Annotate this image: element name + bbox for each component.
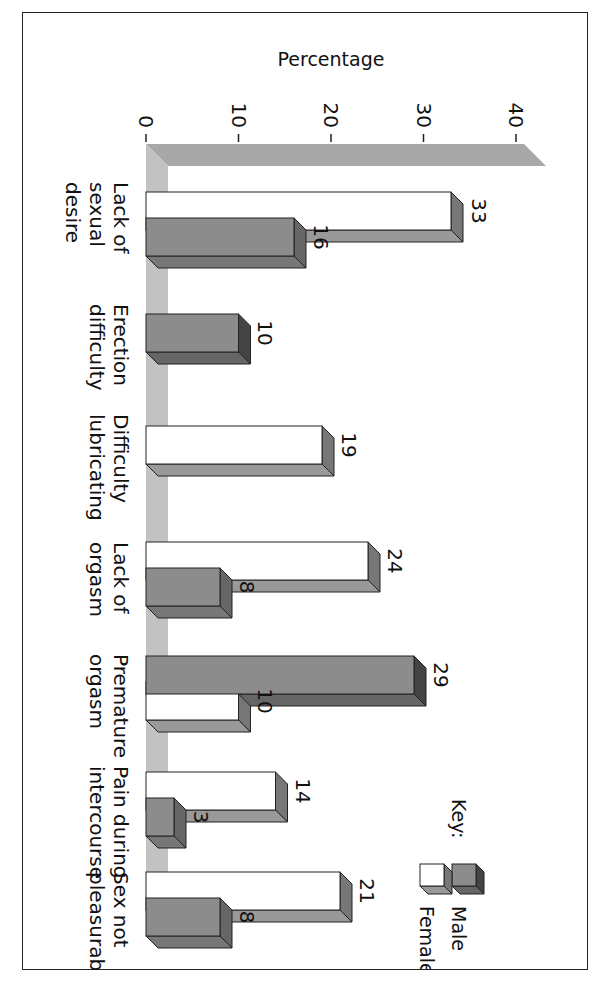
value-female-0: 33 xyxy=(467,198,491,223)
y-tick-10: 10 xyxy=(227,103,251,128)
bar-female-difficulty-lubricating xyxy=(146,426,322,464)
svg-text:Lack of: Lack of xyxy=(109,182,133,255)
category-label-lack-of-sexual-desire: Lack of sexual desire xyxy=(61,182,133,255)
value-female-4: 10 xyxy=(253,688,277,713)
y-axis xyxy=(146,134,516,142)
svg-text:pleasurable: pleasurable xyxy=(85,872,109,970)
bar-male-erection-difficulty xyxy=(146,314,239,352)
legend-label-male: Male xyxy=(448,906,470,951)
category-label-difficulty-lubricating: Difficulty lubricating xyxy=(85,414,133,521)
legend: Key: Male Female xyxy=(416,799,484,970)
svg-text:orgasm: orgasm xyxy=(85,654,109,729)
svg-text:Pain during: Pain during xyxy=(109,766,133,879)
svg-text:difficulty: difficulty xyxy=(85,304,109,391)
svg-text:Lack of: Lack of xyxy=(109,542,133,615)
value-female-5: 14 xyxy=(291,778,315,803)
value-male-6: 8 xyxy=(235,911,259,924)
svg-text:Difficulty: Difficulty xyxy=(109,414,133,503)
value-female-2: 19 xyxy=(337,432,361,457)
value-male-5: 3 xyxy=(189,811,213,824)
bar-group-lack-of-sexual-desire xyxy=(146,192,463,268)
svg-text:lubricating: lubricating xyxy=(85,414,109,521)
svg-text:sexual: sexual xyxy=(85,182,109,247)
svg-text:intercourse: intercourse xyxy=(85,766,109,879)
value-male-4: 29 xyxy=(429,662,453,687)
bar-group-pain-during-intercourse xyxy=(146,772,288,848)
y-tick-0: 0 xyxy=(134,115,158,128)
bar-male-premature-orgasm xyxy=(146,656,414,694)
bar-group-erection-difficulty xyxy=(146,314,251,364)
y-tick-20: 20 xyxy=(319,103,343,128)
bar-chart: 0 10 20 30 40 Percentage 33 16 10 19 xyxy=(24,14,586,970)
category-label-premature-orgasm: Premature orgasm xyxy=(85,654,133,758)
svg-text:Sex not: Sex not xyxy=(109,872,133,948)
legend-title: Key: xyxy=(448,799,470,838)
value-male-1: 10 xyxy=(253,320,277,345)
value-male-3: 8 xyxy=(235,581,259,594)
value-female-3: 24 xyxy=(383,548,407,573)
value-female-6: 21 xyxy=(355,878,379,903)
svg-text:Erection: Erection xyxy=(109,304,133,386)
bar-group-lack-of-orgasm xyxy=(146,542,380,618)
value-male-0: 16 xyxy=(309,224,333,249)
bar-male-lack-of-sexual-desire xyxy=(146,218,294,256)
legend-swatch-female xyxy=(420,864,452,894)
svg-text:desire: desire xyxy=(61,182,85,243)
bar-group-premature-orgasm xyxy=(146,656,426,732)
svg-text:orgasm: orgasm xyxy=(85,542,109,617)
category-label-erection-difficulty: Erection difficulty xyxy=(85,304,133,391)
legend-label-female: Female xyxy=(416,906,438,970)
y-tick-40: 40 xyxy=(504,103,528,128)
legend-swatch-male xyxy=(452,864,484,894)
category-label-pain-during-intercourse: Pain during intercourse xyxy=(85,766,133,879)
y-tick-30: 30 xyxy=(412,103,436,128)
bar-male-lack-of-orgasm xyxy=(146,568,220,606)
bar-male-pain-during-intercourse xyxy=(146,798,174,836)
category-label-sex-not-pleasurable: Sex not pleasurable xyxy=(85,872,133,970)
svg-text:Premature: Premature xyxy=(109,654,133,758)
back-wall xyxy=(146,144,546,166)
category-label-lack-of-orgasm: Lack of orgasm xyxy=(85,542,133,617)
bar-group-difficulty-lubricating xyxy=(146,426,334,476)
bar-male-sex-not-pleasurable xyxy=(146,898,220,936)
y-axis-title: Percentage xyxy=(278,48,385,70)
